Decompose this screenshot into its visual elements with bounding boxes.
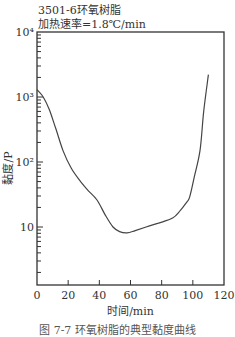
viscosity-curve <box>37 75 208 233</box>
x-tick-label: 0 <box>34 289 41 302</box>
y-tick-label: 10⁴ <box>16 26 35 39</box>
y-tick-label: 10² <box>16 156 34 169</box>
plot-frame <box>37 32 224 285</box>
y-tick-label: 10 <box>20 221 34 234</box>
x-tick-label: 40 <box>92 289 106 302</box>
y-tick-label: 10³ <box>16 91 34 104</box>
x-axis-label: 时间/min <box>107 305 154 318</box>
figure-caption: 图 7-7 环氧树脂的典型黏度曲线 <box>0 321 235 337</box>
x-tick-label: 120 <box>214 289 235 302</box>
x-tick-label: 100 <box>182 289 203 302</box>
x-tick-label: 60 <box>124 289 138 302</box>
x-tick-label: 80 <box>155 289 169 302</box>
x-tick-label: 20 <box>61 289 75 302</box>
